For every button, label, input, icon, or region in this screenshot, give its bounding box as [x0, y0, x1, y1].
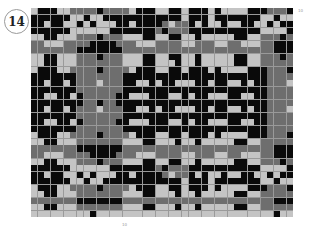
grid-cell: [129, 126, 135, 132]
grid-cell: [267, 21, 273, 27]
grid-cell: [162, 34, 168, 40]
grid-cell: [103, 106, 109, 112]
grid-cell: [254, 139, 260, 145]
grid-cell: [287, 80, 293, 86]
grid-cell: [97, 159, 103, 165]
grid-cell: [129, 132, 135, 138]
grid-cell: [116, 132, 122, 138]
grid-cell: [287, 178, 293, 184]
grid-cell: [234, 73, 240, 79]
grid-cell: [97, 204, 103, 210]
grid-cell: [31, 80, 37, 86]
grid-cell: [123, 41, 129, 47]
grid-cell: [162, 21, 168, 27]
grid-cell: [57, 100, 63, 106]
grid-cell: [57, 73, 63, 79]
grid-cell: [51, 211, 57, 217]
grid-cell: [182, 145, 188, 151]
grid-cell: [215, 132, 221, 138]
grid-cell: [261, 54, 267, 60]
grid-cell: [228, 139, 234, 145]
grid-cell: [274, 119, 280, 125]
grid-cell: [64, 119, 70, 125]
grid-cell: [97, 60, 103, 66]
grid-cell: [221, 54, 227, 60]
grid-cell: [234, 172, 240, 178]
grid-cell: [64, 15, 70, 21]
grid-cell: [84, 80, 90, 86]
grid-cell: [182, 211, 188, 217]
grid-cell: [51, 8, 57, 14]
grid-cell: [38, 100, 44, 106]
grid-cell: [51, 119, 57, 125]
grid-cell: [44, 28, 50, 34]
grid-cell: [57, 47, 63, 53]
grid-cell: [90, 185, 96, 191]
grid-cell: [234, 41, 240, 47]
grid-cell: [156, 132, 162, 138]
grid-cell: [110, 211, 116, 217]
grid-cell: [31, 106, 37, 112]
grid-cell: [169, 21, 175, 27]
grid-cell: [90, 126, 96, 132]
grid-cell: [169, 159, 175, 165]
grid-cell: [103, 159, 109, 165]
grid-cell: [280, 132, 286, 138]
grid-cell: [234, 119, 240, 125]
grid-cell: [254, 178, 260, 184]
grid-cell: [31, 34, 37, 40]
grid-cell: [274, 34, 280, 40]
grid-cell: [261, 185, 267, 191]
grid-cell: [248, 165, 254, 171]
grid-cell: [189, 119, 195, 125]
grid-cell: [70, 172, 76, 178]
grid-cell: [208, 145, 214, 151]
grid-cell: [57, 15, 63, 21]
grid-cell: [175, 204, 181, 210]
grid-cell: [261, 178, 267, 184]
grid-cell: [143, 152, 149, 158]
grid-cell: [70, 191, 76, 197]
grid-cell: [129, 204, 135, 210]
grid-cell: [143, 47, 149, 53]
grid-cell: [57, 165, 63, 171]
grid-cell: [51, 100, 57, 106]
grid-cell: [202, 34, 208, 40]
grid-cell: [261, 8, 267, 14]
grid-cell: [221, 165, 227, 171]
grid-cell: [215, 54, 221, 60]
grid-cell: [189, 8, 195, 14]
grid-cell: [110, 152, 116, 158]
grid-cell: [228, 93, 234, 99]
grid-cell: [51, 80, 57, 86]
grid-cell: [123, 8, 129, 14]
grid-cell: [103, 113, 109, 119]
grid-cell: [195, 34, 201, 40]
grid-cell: [287, 60, 293, 66]
grid-cell: [149, 80, 155, 86]
grid-cell: [44, 41, 50, 47]
grid-cell: [234, 211, 240, 217]
grid-cell: [280, 93, 286, 99]
grid-cell: [143, 73, 149, 79]
grid-cell: [110, 178, 116, 184]
grid-cell: [31, 172, 37, 178]
grid-cell: [280, 28, 286, 34]
grid-cell: [261, 80, 267, 86]
grid-cell: [84, 8, 90, 14]
grid-cell: [136, 15, 142, 21]
grid-cell: [110, 191, 116, 197]
grid-cell: [254, 8, 260, 14]
grid-cell: [195, 145, 201, 151]
grid-cell: [175, 15, 181, 21]
grid-cell: [116, 139, 122, 145]
grid-cell: [31, 165, 37, 171]
grid-cell: [280, 73, 286, 79]
grid-cell: [241, 139, 247, 145]
grid-cell: [31, 100, 37, 106]
grid-cell: [208, 54, 214, 60]
grid-cell: [90, 178, 96, 184]
grid-cell: [64, 47, 70, 53]
grid-cell: [169, 28, 175, 34]
grid-cell: [77, 132, 83, 138]
